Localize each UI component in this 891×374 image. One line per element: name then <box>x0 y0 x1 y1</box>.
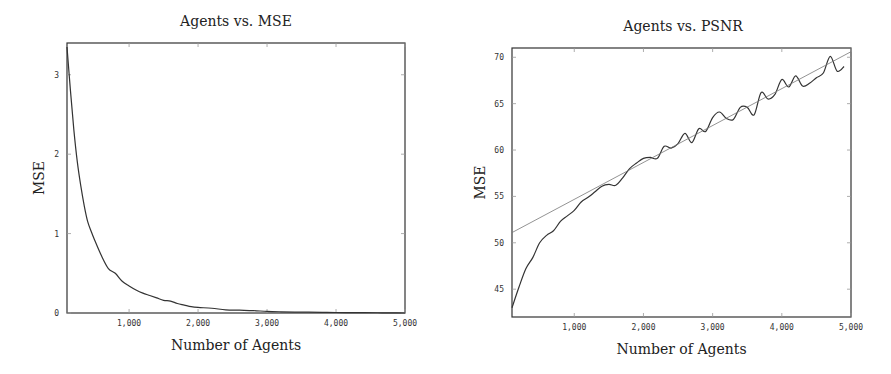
y-tick-label: 1 <box>54 230 59 239</box>
x-tick-label: 2,000 <box>631 323 655 332</box>
y-tick-label: 3 <box>54 71 59 80</box>
mse-chart-svg: Agents vs. MSE1,0002,0003,0004,0005,0000… <box>0 0 445 374</box>
mse-chart: Agents vs. MSE1,0002,0003,0004,0005,0000… <box>0 0 445 374</box>
x-tick-label: 5,000 <box>839 323 863 332</box>
x-axis-label: Number of Agents <box>616 341 746 357</box>
psnr-chart-svg: Agents vs. PSNR1,0002,0003,0004,0005,000… <box>445 0 891 374</box>
x-tick-label: 5,000 <box>393 319 417 328</box>
x-tick-label: 2,000 <box>186 319 210 328</box>
y-tick-label: 65 <box>494 100 504 109</box>
y-axis-label: MSE <box>31 161 47 195</box>
plot-frame <box>512 48 851 317</box>
x-tick-label: 4,000 <box>324 319 348 328</box>
chart-title: Agents vs. PSNR <box>622 18 743 34</box>
x-tick-label: 3,000 <box>255 319 279 328</box>
x-tick-label: 4,000 <box>770 323 794 332</box>
chart-title: Agents vs. MSE <box>179 13 292 29</box>
y-tick-label: 2 <box>54 150 59 159</box>
x-tick-label: 3,000 <box>701 323 725 332</box>
x-tick-label: 1,000 <box>562 323 586 332</box>
y-tick-label: 0 <box>54 309 59 318</box>
y-axis-label: MSE <box>472 165 488 199</box>
y-tick-label: 55 <box>494 192 504 201</box>
y-tick-label: 50 <box>494 239 504 248</box>
data-line <box>512 56 844 307</box>
x-tick-label: 1,000 <box>117 319 141 328</box>
plot-frame <box>67 43 405 313</box>
data-line <box>67 47 405 313</box>
y-tick-label: 45 <box>494 285 504 294</box>
y-tick-label: 60 <box>494 146 504 155</box>
y-tick-label: 70 <box>494 53 504 62</box>
trend-line <box>512 52 851 233</box>
psnr-chart: Agents vs. PSNR1,0002,0003,0004,0005,000… <box>445 0 891 374</box>
x-axis-label: Number of Agents <box>171 337 301 353</box>
